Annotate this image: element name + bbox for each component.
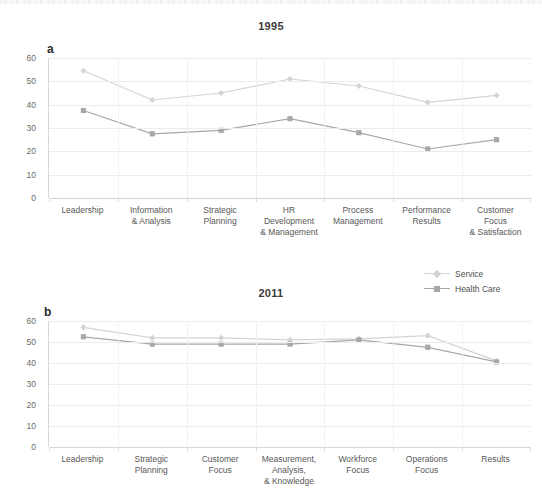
x-axis-labels-1995: LeadershipInformation& AnalysisStrategic…	[48, 198, 530, 238]
category-separator	[256, 321, 257, 447]
gridline	[49, 175, 531, 176]
x-axis-label: OperationsFocus	[392, 447, 461, 487]
x-axis-label-line: Focus	[392, 465, 461, 476]
chart-panel-1995: 1995 a 0102030405060 LeadershipInformati…	[0, 18, 542, 283]
x-axis-label-line: Results	[461, 454, 530, 465]
x-axis-label-line: Strategic	[117, 454, 186, 465]
x-axis-label-line: Development	[255, 216, 324, 227]
x-axis-label-line: Process	[323, 205, 392, 216]
data-point-marker[interactable]	[218, 335, 224, 341]
gridline	[49, 405, 531, 406]
x-axis-labels-2011: LeadershipStrategicPlanningCustomerFocus…	[48, 447, 530, 487]
x-axis-label-line: Results	[392, 216, 461, 227]
x-axis-label-line: Management	[323, 216, 392, 227]
x-axis-label: Measurement,Analysis,& Knowledge	[255, 447, 324, 487]
x-axis-label-line: Focus	[461, 216, 530, 227]
x-axis-label-line: & Satisfaction	[461, 227, 530, 238]
data-point-marker[interactable]	[425, 333, 431, 339]
data-point-marker[interactable]	[287, 116, 292, 121]
y-tick-label: 20	[27, 146, 36, 156]
data-point-marker[interactable]	[149, 97, 155, 103]
gridline	[49, 58, 531, 59]
y-tick-label: 50	[27, 76, 36, 86]
data-point-marker[interactable]	[80, 68, 86, 74]
panel-label-a: a	[47, 42, 54, 56]
data-point-marker[interactable]	[356, 130, 361, 135]
chart-title-2011: 2011	[0, 285, 542, 301]
x-axis-label-line: Information	[117, 205, 186, 216]
y-axis-2011: 0102030405060	[0, 321, 42, 447]
category-separator	[393, 321, 394, 447]
data-point-marker[interactable]	[494, 137, 499, 142]
x-axis-label-line: Workforce	[323, 454, 392, 465]
x-axis-label: Leadership	[48, 198, 117, 238]
x-axis-label-line: Strategic	[186, 205, 255, 216]
x-axis-label-line: Customer	[186, 454, 255, 465]
panel-label-b: b	[44, 305, 51, 319]
x-axis-label: StrategicPlanning	[186, 198, 255, 238]
data-point-marker[interactable]	[493, 92, 499, 98]
chart-title-1995: 1995	[0, 18, 542, 34]
plot-area-2011	[48, 321, 531, 447]
y-tick-label: 50	[27, 337, 36, 347]
gridline	[49, 342, 531, 343]
category-separator	[462, 58, 463, 198]
category-separator	[256, 58, 257, 198]
y-tick-label: 40	[27, 100, 36, 110]
x-axis-label: CustomerFocus	[186, 447, 255, 487]
gridline	[49, 384, 531, 385]
gridline	[49, 426, 531, 427]
data-point-marker[interactable]	[425, 345, 430, 350]
y-tick-label: 60	[27, 316, 36, 326]
x-axis-label-line: & Management	[255, 227, 324, 238]
x-axis-label: WorkforceFocus	[323, 447, 392, 487]
x-axis-label: ProcessManagement	[323, 198, 392, 238]
x-axis-label-line: Analysis,	[255, 465, 324, 476]
gridline	[49, 363, 531, 364]
y-tick-label: 0	[31, 442, 36, 452]
x-tick-mark	[530, 198, 531, 202]
data-point-marker[interactable]	[218, 90, 224, 96]
x-axis-label-line: & Knowledge	[255, 476, 324, 487]
scan-artifact-strip	[0, 0, 542, 4]
y-tick-label: 10	[27, 170, 36, 180]
data-point-marker[interactable]	[356, 83, 362, 89]
plot-area-1995	[48, 58, 531, 198]
legend-item-service[interactable]: Service	[424, 266, 500, 281]
x-axis-label: CustomerFocus& Satisfaction	[461, 198, 530, 238]
gridline	[49, 321, 531, 322]
data-point-marker[interactable]	[81, 334, 86, 339]
x-axis-label-line: Customer	[461, 205, 530, 216]
y-tick-label: 60	[27, 53, 36, 63]
gridline	[49, 105, 531, 106]
x-axis-label-line: HR	[255, 205, 324, 216]
x-axis-label-line: Leadership	[48, 454, 117, 465]
category-separator	[393, 58, 394, 198]
category-separator	[324, 321, 325, 447]
x-axis-label-line: & Analysis	[117, 216, 186, 227]
category-separator	[324, 58, 325, 198]
x-axis-label-line: Operations	[392, 454, 461, 465]
legend-label-service: Service	[455, 269, 483, 279]
x-axis-label: Leadership	[48, 447, 117, 487]
gridline	[49, 151, 531, 152]
category-separator	[462, 321, 463, 447]
x-axis-label: PerformanceResults	[392, 198, 461, 238]
category-separator	[187, 321, 188, 447]
y-tick-label: 30	[27, 123, 36, 133]
y-tick-label: 10	[27, 421, 36, 431]
y-tick-label: 40	[27, 358, 36, 368]
data-point-marker[interactable]	[149, 335, 155, 341]
x-axis-label-line: Measurement,	[255, 454, 324, 465]
series-line-service	[83, 71, 496, 103]
x-axis-label: Results	[461, 447, 530, 487]
data-point-marker[interactable]	[81, 108, 86, 113]
data-point-marker[interactable]	[80, 324, 86, 330]
data-point-marker[interactable]	[150, 131, 155, 136]
gridline	[49, 81, 531, 82]
x-axis-label-line: Focus	[323, 465, 392, 476]
category-separator	[118, 321, 119, 447]
y-tick-label: 0	[31, 193, 36, 203]
x-axis-label-line: Performance	[392, 205, 461, 216]
y-tick-label: 30	[27, 379, 36, 389]
